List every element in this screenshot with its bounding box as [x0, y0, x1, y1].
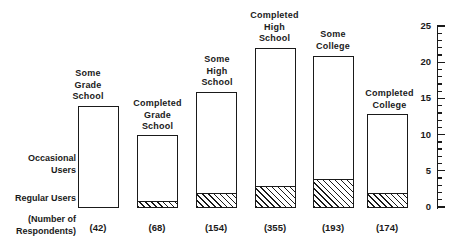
bar-regular-some-college — [313, 179, 354, 208]
bar-total-completed-grade-school — [137, 135, 178, 208]
y-axis-minor-tick — [438, 105, 442, 106]
respondent-count-some-high-school: (154) — [186, 222, 246, 233]
bar-label-some-grade-school: Some Grade School — [58, 68, 118, 103]
y-axis-minor-tick — [438, 156, 442, 157]
respondents-caption-line1: (Number of — [0, 213, 76, 225]
bar-total-completed-high-school — [255, 48, 296, 208]
y-axis-major-tick — [438, 98, 445, 99]
y-axis-minor-tick — [438, 33, 442, 34]
y-axis-minor-tick — [438, 40, 442, 41]
respondent-count-some-grade-school: (42) — [68, 222, 128, 233]
bar-label-line: School — [123, 121, 192, 133]
legend-occasional-users-line2: Users — [0, 164, 76, 176]
y-axis-tick-label: 0 — [403, 201, 431, 212]
bar-label-line: Some — [58, 68, 118, 80]
bar-label-line: Grade — [58, 80, 118, 92]
y-axis-tick-label: 10 — [403, 129, 431, 140]
legend-occasional-users-line1: Occasional — [0, 152, 76, 164]
bar-label-line: High — [187, 66, 247, 78]
respondent-count-completed-college: (174) — [357, 222, 417, 233]
y-axis-minor-tick — [438, 163, 442, 164]
bar-label-line: School — [58, 91, 118, 103]
bar-label-some-college: Some College — [303, 29, 363, 52]
bar-label-completed-high-school: Completed High School — [240, 10, 309, 45]
y-axis-minor-tick — [438, 192, 442, 193]
y-axis-minor-tick — [438, 141, 442, 142]
bar-total-some-high-school — [196, 92, 237, 208]
respondent-count-completed-high-school: (355) — [245, 222, 305, 233]
y-axis-tick-label: 5 — [403, 165, 431, 176]
bar-label-line: Grade — [123, 110, 192, 122]
bar-label-line: Some — [187, 54, 247, 66]
y-axis-minor-tick — [438, 91, 442, 92]
y-axis-tick-label: 25 — [403, 20, 431, 31]
y-axis-minor-tick — [438, 148, 442, 149]
respondent-count-completed-grade-school: (68) — [127, 222, 187, 233]
y-axis-major-tick — [438, 134, 445, 135]
bar-label-line: High — [240, 22, 309, 34]
y-axis-major-tick — [438, 62, 445, 63]
y-axis-major-tick — [438, 25, 445, 26]
bar-label-line: College — [303, 41, 363, 53]
bar-label-line: Some — [303, 29, 363, 41]
bar-regular-completed-college — [367, 193, 408, 208]
y-axis-minor-tick — [438, 54, 442, 55]
y-axis-minor-tick — [438, 69, 442, 70]
bar-label-line: School — [240, 33, 309, 45]
bar-label-line: School — [187, 77, 247, 89]
bar-regular-completed-high-school — [255, 186, 296, 208]
y-axis-tick-label: 15 — [403, 92, 431, 103]
y-axis-minor-tick — [438, 120, 442, 121]
bar-label-completed-grade-school: Completed Grade School — [123, 98, 192, 133]
y-axis-minor-tick — [438, 185, 442, 186]
bar-total-some-grade-school — [78, 106, 119, 208]
y-axis-minor-tick — [438, 47, 442, 48]
y-axis-minor-tick — [438, 127, 442, 128]
bar-label-some-high-school: Some High School — [187, 54, 247, 89]
y-axis-minor-tick — [438, 83, 442, 84]
y-axis-major-tick — [438, 170, 445, 171]
y-axis-tick-label: 20 — [403, 56, 431, 67]
respondent-count-some-college: (193) — [303, 222, 363, 233]
bar-label-line: Completed — [240, 10, 309, 22]
y-axis-minor-tick — [438, 177, 442, 178]
bar-regular-completed-grade-school — [137, 201, 178, 208]
y-axis-spine — [437, 25, 438, 209]
bar-label-line: Completed — [123, 98, 192, 110]
education-usage-bar-chart: Occasional Users Regular Users (Number o… — [0, 0, 456, 244]
bar-regular-some-high-school — [196, 193, 237, 208]
y-axis-major-tick — [438, 206, 445, 207]
y-axis-minor-tick — [438, 199, 442, 200]
respondents-caption-line2: Respondents) — [0, 225, 76, 237]
y-axis-minor-tick — [438, 112, 442, 113]
y-axis-minor-tick — [438, 76, 442, 77]
legend-regular-users: Regular Users — [0, 192, 76, 204]
